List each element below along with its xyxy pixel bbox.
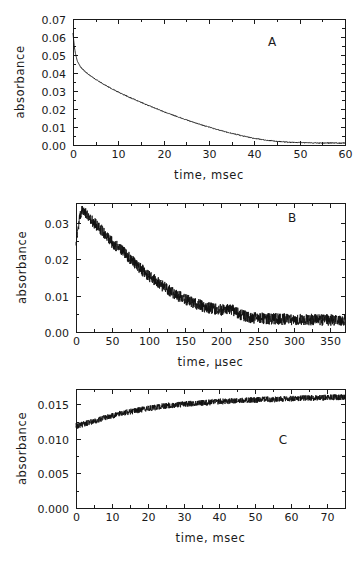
x-tick-label: 0 — [70, 148, 77, 161]
y-tick-label: 0.06 — [42, 32, 67, 45]
y-tick-label: 0.03 — [42, 86, 67, 99]
plot-b: 0501001502002503003500.000.010.020.03Bti… — [0, 186, 360, 378]
x-tick-label: 100 — [139, 335, 160, 348]
y-axis-title: absorbance — [15, 231, 29, 304]
y-tick-label: 0.015 — [38, 399, 70, 412]
x-tick-label: 150 — [175, 335, 196, 348]
x-tick-label: 20 — [142, 511, 156, 524]
y-axis-title: absorbance — [13, 45, 27, 118]
data-trace — [73, 33, 345, 143]
x-tick-label: 30 — [178, 511, 192, 524]
y-tick-label: 0.04 — [42, 68, 67, 81]
plot-frame — [77, 204, 346, 333]
x-tick-label: 200 — [211, 335, 232, 348]
y-tick-label: 0.000 — [38, 503, 70, 516]
x-tick-label: 250 — [248, 335, 269, 348]
x-tick-label: 40 — [213, 511, 227, 524]
panel-letter: A — [268, 35, 277, 49]
y-tick-label: 0.00 — [42, 140, 67, 153]
x-tick-label: 0 — [73, 511, 80, 524]
x-tick-label: 50 — [294, 148, 308, 161]
panel-letter: B — [288, 211, 296, 225]
x-tick-label: 350 — [320, 335, 341, 348]
x-tick-label: 70 — [321, 511, 335, 524]
x-tick-label: 20 — [158, 148, 172, 161]
x-tick-label: 300 — [284, 335, 305, 348]
plot-a: 01020304050600.000.010.020.030.040.050.0… — [0, 0, 360, 190]
x-tick-label: 10 — [106, 511, 120, 524]
panel-a: 01020304050600.000.010.020.030.040.050.0… — [0, 0, 360, 190]
x-tick-label: 0 — [73, 335, 80, 348]
y-tick-label: 0.005 — [38, 468, 70, 481]
y-tick-label: 0.02 — [42, 104, 67, 117]
x-tick-label: 50 — [106, 335, 120, 348]
x-axis-title: time, msec — [174, 168, 244, 182]
plot-c: 0102030405060700.0000.0050.0100.015Ctime… — [0, 372, 360, 572]
absorbance-kinetics-figure: 01020304050600.000.010.020.030.040.050.0… — [0, 0, 360, 572]
y-tick-label: 0.02 — [45, 254, 70, 267]
y-tick-label: 0.01 — [42, 122, 67, 135]
x-axis-title: time, μsec — [178, 355, 244, 369]
y-tick-label: 0.05 — [42, 50, 67, 63]
x-tick-label: 50 — [249, 511, 263, 524]
y-axis-title: absorbance — [15, 412, 29, 485]
x-tick-label: 30 — [203, 148, 217, 161]
x-axis-title: time, msec — [176, 531, 246, 545]
y-tick-label: 0.07 — [42, 14, 67, 27]
panel-b: 0501001502002503003500.000.010.020.03Bti… — [0, 186, 360, 378]
y-tick-label: 0.01 — [45, 291, 70, 304]
x-tick-label: 60 — [285, 511, 299, 524]
x-tick-label: 60 — [339, 148, 353, 161]
panel-c: 0102030405060700.0000.0050.0100.015Ctime… — [0, 372, 360, 572]
data-trace — [76, 206, 345, 326]
y-tick-label: 0.00 — [45, 327, 70, 340]
x-tick-label: 40 — [248, 148, 262, 161]
plot-frame — [77, 390, 346, 509]
panel-letter: C — [279, 433, 287, 447]
data-trace — [76, 394, 345, 428]
y-tick-label: 0.03 — [45, 218, 70, 231]
x-tick-label: 10 — [112, 148, 126, 161]
y-tick-label: 0.010 — [38, 434, 70, 447]
